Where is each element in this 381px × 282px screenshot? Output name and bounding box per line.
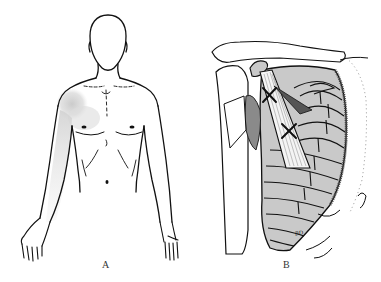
ribcage-drawing (190, 0, 381, 282)
anatomical-figure: A (0, 0, 381, 282)
panel-b-ribcage: BD B (190, 0, 381, 282)
referred-pain-area (46, 88, 100, 222)
panel-label-b: B (283, 259, 290, 270)
head-outline (90, 15, 126, 70)
right-hand (160, 222, 178, 260)
left-hand (21, 218, 50, 261)
body-outline-drawing (0, 0, 190, 282)
body-landmarks (82, 126, 135, 185)
panel-label-a: A (102, 259, 109, 270)
body-contour-dotted (346, 58, 367, 212)
artist-signature: BD (295, 229, 304, 236)
panel-a-body-outline: A (0, 0, 190, 282)
